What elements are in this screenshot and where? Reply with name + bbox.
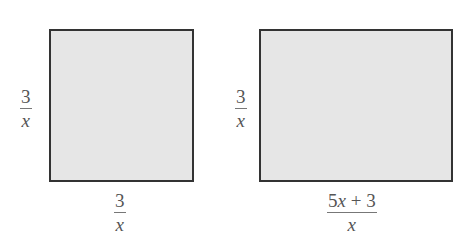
- square-height-denominator: x: [22, 109, 30, 130]
- square-width-denominator: x: [116, 213, 124, 234]
- numerator-constant: + 3: [346, 190, 376, 211]
- square-height-label: 3 x: [20, 87, 32, 130]
- rectangle-height-numerator: 3: [235, 87, 247, 108]
- rectangle-width-numerator: 5x + 3: [327, 191, 377, 212]
- square-width-numerator: 3: [114, 191, 126, 212]
- rectangle-height-denominator: x: [237, 109, 245, 130]
- numerator-coefficient: 5: [328, 190, 338, 211]
- square-height-numerator: 3: [20, 87, 32, 108]
- rectangle-height-label: 3 x: [235, 87, 247, 130]
- rectangle-width-denominator: x: [348, 213, 356, 234]
- rectangle-figure: [259, 29, 453, 182]
- square-width-label: 3 x: [114, 191, 126, 234]
- numerator-variable: x: [338, 190, 346, 211]
- rectangle-width-label: 5x + 3 x: [327, 191, 377, 234]
- square-figure: [49, 29, 194, 182]
